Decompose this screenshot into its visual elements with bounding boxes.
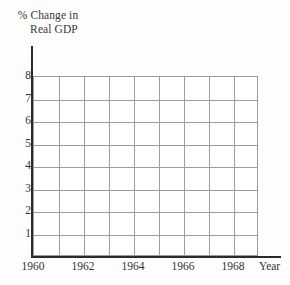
y-axis-tick-label: 6 [5, 115, 31, 127]
grid-line-horizontal [34, 212, 257, 213]
x-axis-unit-label: Year [259, 260, 289, 272]
x-axis-tick-label: 1962 [61, 260, 105, 272]
y-axis-line [31, 46, 33, 258]
grid-line-horizontal [34, 190, 257, 191]
grid-line-vertical [59, 77, 60, 255]
y-axis-tick-label: 3 [5, 183, 31, 195]
grid-line-vertical [134, 77, 135, 255]
x-axis-tick-label: 1960 [11, 260, 55, 272]
grid-line-horizontal [34, 235, 257, 236]
grid-line-vertical [84, 77, 85, 255]
y-axis-tick-labels: 87654321 [0, 0, 31, 285]
grid-line-vertical [234, 77, 235, 255]
y-axis-tick-label: 5 [5, 138, 31, 150]
grid-line-vertical [159, 77, 160, 255]
x-axis-tick-label: 1968 [211, 260, 255, 272]
y-axis-tick-label: 7 [5, 93, 31, 105]
grid-line-horizontal [34, 122, 257, 123]
x-axis-tick-label: 1966 [161, 260, 205, 272]
grid-line-horizontal [34, 145, 257, 146]
y-axis-tick-label: 1 [5, 228, 31, 240]
grid-line-vertical [184, 77, 185, 255]
grid-line-vertical [209, 77, 210, 255]
grid-line-vertical [109, 77, 110, 255]
y-axis-tick-label: 4 [5, 160, 31, 172]
y-axis-tick-label: 2 [5, 205, 31, 217]
grid-line-horizontal [34, 100, 257, 101]
chart-figure: % Change in Real GDP 87654321 Year 19601… [0, 0, 290, 285]
x-axis-tick-label: 1964 [111, 260, 155, 272]
plot-area [33, 76, 258, 256]
y-axis-tick-label: 8 [5, 70, 31, 82]
grid-line-horizontal [34, 167, 257, 168]
x-axis-tick-labels: Year 19601962196419661968 [0, 258, 290, 278]
